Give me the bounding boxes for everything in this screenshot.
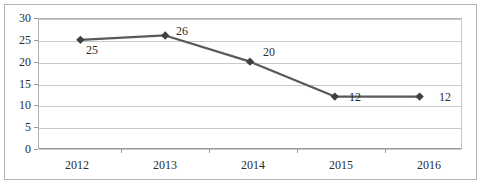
chart-figure: 30 25 20 15 10 5 0 2012 2013 2014 2015 2… bbox=[0, 0, 485, 187]
data-point-labels: 25 26 20 12 12 bbox=[0, 0, 485, 187]
data-label-2012: 25 bbox=[86, 44, 98, 56]
data-label-2015: 12 bbox=[349, 91, 361, 103]
data-label-2016: 12 bbox=[439, 91, 451, 103]
data-label-2014: 20 bbox=[263, 46, 275, 58]
data-label-2013: 26 bbox=[176, 25, 188, 37]
